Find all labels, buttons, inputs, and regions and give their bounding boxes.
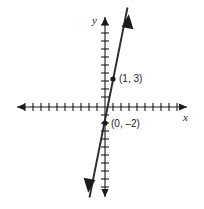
y-axis-label: y [91,14,97,26]
data-point-0-neg2-label: (0, –2) [111,118,140,129]
plotted-line [84,8,134,198]
x-axis-arrow-right-icon [179,103,187,110]
y-axis-arrow-down-icon [101,189,108,197]
data-point-0-neg2 [102,120,107,125]
y-axis-arrow-up-icon [101,17,108,25]
line-segment [90,8,128,198]
data-point-1-3 [110,76,115,81]
coordinate-plane-svg: (1, 3) (0, –2) y x [0,0,204,209]
data-point-1-3-label: (1, 3) [119,73,142,84]
line-arrow-up-icon [122,14,134,29]
x-axis [17,103,187,111]
graph-figure: (1, 3) (0, –2) y x [0,0,204,209]
x-axis-arrow-left-icon [17,103,25,110]
line-arrow-down-icon [84,178,96,193]
x-axis-label: x [182,111,188,123]
